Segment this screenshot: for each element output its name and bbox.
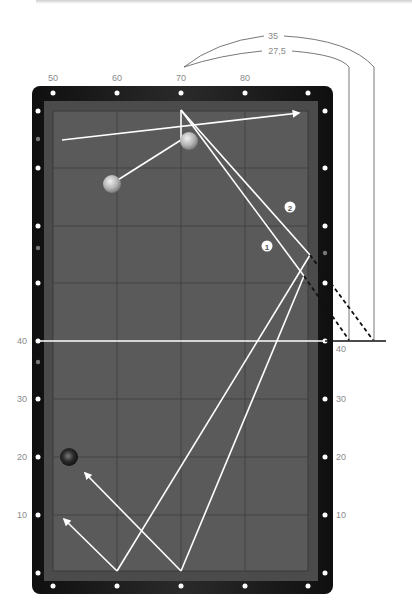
left-label: 40 bbox=[17, 336, 27, 346]
left-label: 30 bbox=[17, 394, 27, 404]
object-ball-light bbox=[103, 175, 121, 193]
right-label: 20 bbox=[336, 452, 346, 462]
top-axis-labels: 50 60 70 80 bbox=[48, 73, 250, 83]
marker-2-label: 2 bbox=[288, 204, 293, 213]
right-label: 40 bbox=[336, 344, 346, 354]
top-label: 70 bbox=[176, 73, 186, 83]
billiard-diagram: 35 27,5 50 60 70 80 bbox=[0, 0, 412, 615]
left-label: 10 bbox=[17, 510, 27, 520]
right-label: 10 bbox=[336, 510, 346, 520]
marker-1-label: 1 bbox=[265, 243, 270, 252]
cue-ball bbox=[180, 132, 198, 150]
bracket-label-inner: 27,5 bbox=[268, 46, 286, 56]
right-axis-labels: 40 30 20 10 bbox=[336, 344, 346, 520]
right-label: 30 bbox=[336, 394, 346, 404]
bracket-label-outer: 35 bbox=[268, 31, 278, 41]
top-label: 60 bbox=[112, 73, 122, 83]
left-label: 20 bbox=[17, 452, 27, 462]
marker-1: 1 bbox=[262, 241, 273, 252]
marker-2: 2 bbox=[285, 202, 296, 213]
object-ball-dark bbox=[60, 448, 78, 466]
left-axis-labels: 40 30 20 10 bbox=[17, 336, 27, 520]
top-label: 50 bbox=[48, 73, 58, 83]
top-label: 80 bbox=[240, 73, 250, 83]
